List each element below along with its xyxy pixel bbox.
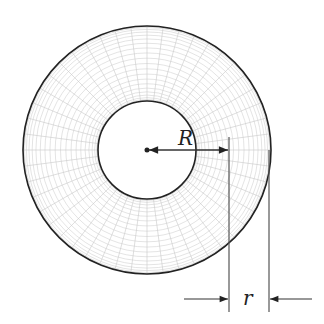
major-radius-label: R (177, 126, 193, 150)
minor-radius-label: r (243, 286, 254, 310)
torus-diagram: R r (0, 0, 324, 324)
center-dot (145, 148, 150, 153)
